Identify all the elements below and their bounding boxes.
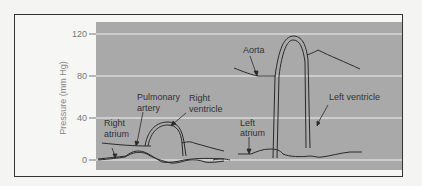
y-axis-ticks (89, 34, 96, 160)
label-aorta: Aorta (243, 45, 265, 55)
label-left-atrium-1: Left (240, 118, 256, 128)
tick-80: 80 (77, 71, 87, 81)
label-left-ventricle: Left ventricle (329, 92, 380, 102)
label-right-ventricle-1: Right (189, 93, 211, 103)
label-left-atrium-2: atrium (240, 128, 265, 138)
tick-0: 0 (82, 155, 87, 165)
pressure-chart: 120 80 40 0 Pressure (mm Hg) Right atriu… (0, 0, 422, 186)
y-axis-label: Pressure (mm Hg) (58, 61, 68, 135)
label-right-atrium-2: atrium (104, 129, 129, 139)
tick-120: 120 (72, 29, 87, 39)
label-right-ventricle-2: ventricle (189, 104, 223, 114)
label-pulmonary-artery-1: Pulmonary (137, 92, 181, 102)
label-right-atrium-1: Right (104, 118, 126, 128)
label-pulmonary-artery-2: artery (137, 103, 161, 113)
tick-40: 40 (77, 113, 87, 123)
